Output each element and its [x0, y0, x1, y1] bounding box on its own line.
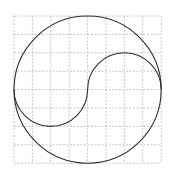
- geometry-figure: [0, 0, 171, 180]
- grid-circle-diagram: [0, 0, 171, 180]
